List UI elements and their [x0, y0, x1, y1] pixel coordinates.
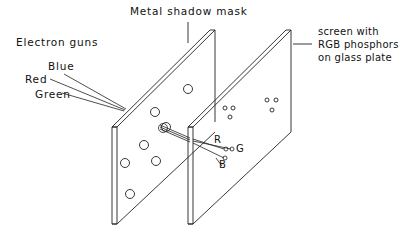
screen-label-line2: RGB phosphors [318, 39, 399, 51]
crt-shadow-mask-diagram: Metal shadow mask Electron guns Blue Red… [0, 0, 420, 239]
mask-holes [121, 85, 193, 199]
mask-label: Metal shadow mask [130, 5, 248, 17]
blue-dot-label: B [219, 159, 226, 171]
green-gun-label: Green [35, 88, 71, 100]
red-gun-label: Red [25, 73, 47, 85]
blue-gun-label: Blue [48, 60, 74, 72]
screen-label-line1: screen with [318, 26, 379, 38]
screen-label-line3: on glass plate [318, 52, 392, 64]
shadow-mask-panel [112, 30, 215, 224]
red-dot-label: R [214, 134, 221, 146]
electron-guns-label: Electron guns [16, 36, 98, 48]
phosphor-dots [223, 98, 278, 119]
green-dot-label: G [236, 143, 244, 155]
screen-panel [188, 30, 291, 224]
